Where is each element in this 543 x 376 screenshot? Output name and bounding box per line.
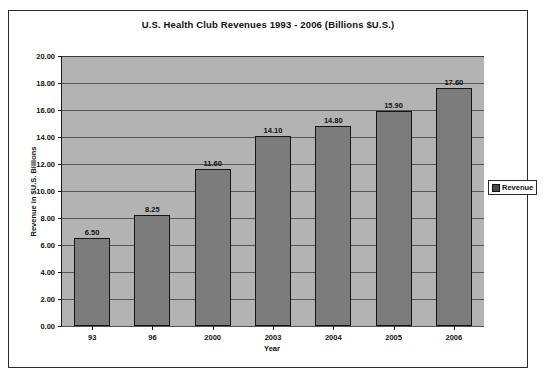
chart-frame: U.S. Health Club Revenues 1993 - 2006 (B… — [8, 10, 528, 368]
y-axis-tick-label: 12.00 — [36, 160, 55, 169]
x-axis-tick-label-2000: 2000 — [204, 333, 221, 342]
y-axis-tick-label: 2.00 — [40, 295, 55, 304]
legend-label-revenue: Revenue — [502, 183, 533, 192]
bar-value-label: 14.10 — [264, 126, 283, 135]
bar-slot: 8.2596 — [122, 56, 182, 326]
chart-title: U.S. Health Club Revenues 1993 - 2006 (B… — [9, 19, 527, 30]
x-axis-tick-label-2003: 2003 — [265, 333, 282, 342]
bar-93[interactable]: 6.50 — [74, 238, 110, 326]
x-axis-tick — [92, 326, 93, 330]
bar-value-label: 11.60 — [204, 159, 222, 168]
bar-slot: 6.5093 — [62, 56, 122, 326]
bar-2006[interactable]: 17.60 — [436, 88, 472, 326]
y-axis-tick-label: 8.00 — [40, 214, 55, 223]
x-axis-title: Year — [61, 344, 483, 353]
bar-value-label: 17.60 — [444, 78, 463, 87]
bar-2003[interactable]: 14.10 — [255, 136, 291, 326]
x-axis-tick — [454, 326, 455, 330]
y-axis-tick-label: 18.00 — [36, 79, 55, 88]
bar-slot: 17.602006 — [424, 56, 484, 326]
y-axis-tick-label: 6.00 — [40, 241, 55, 250]
plot-area: 0.002.004.006.008.0010.0012.0014.0016.00… — [61, 56, 484, 327]
x-axis-tick-label-96: 96 — [148, 333, 156, 342]
y-axis-tick-label: 0.00 — [40, 322, 55, 331]
x-axis-tick-label-2006: 2006 — [446, 333, 463, 342]
x-axis-tick — [213, 326, 214, 330]
bar-slot: 14.102003 — [243, 56, 303, 326]
x-axis-tick-label-93: 93 — [88, 333, 96, 342]
bar-2000[interactable]: 11.60 — [195, 169, 231, 326]
chart-legend: Revenue — [488, 180, 537, 195]
legend-swatch-icon — [492, 184, 500, 192]
x-axis-tick-label-2005: 2005 — [385, 333, 402, 342]
bar-slot: 14.802004 — [303, 56, 363, 326]
y-axis-tick-label: 14.00 — [36, 133, 55, 142]
y-axis-tick-label: 4.00 — [40, 268, 55, 277]
y-axis-tick-label: 10.00 — [36, 187, 55, 196]
bar-2004[interactable]: 14.80 — [315, 126, 351, 326]
bar-value-label: 15.90 — [384, 101, 403, 110]
x-axis-tick — [394, 326, 395, 330]
x-axis-tick — [152, 326, 153, 330]
bar-slot: 15.902005 — [363, 56, 423, 326]
bar-2005[interactable]: 15.90 — [376, 111, 412, 326]
bar-value-label: 6.50 — [85, 228, 100, 237]
y-axis-tick-label: 20.00 — [36, 52, 55, 61]
x-axis-tick-label-2004: 2004 — [325, 333, 342, 342]
x-axis-tick — [333, 326, 334, 330]
bar-value-label: 8.25 — [145, 205, 160, 214]
y-axis-tick — [58, 326, 62, 327]
y-axis-tick-label: 16.00 — [36, 106, 55, 115]
bar-slot: 11.602000 — [183, 56, 243, 326]
x-axis-tick — [273, 326, 274, 330]
bar-value-label: 14.80 — [324, 116, 343, 125]
bar-96[interactable]: 8.25 — [134, 215, 170, 326]
